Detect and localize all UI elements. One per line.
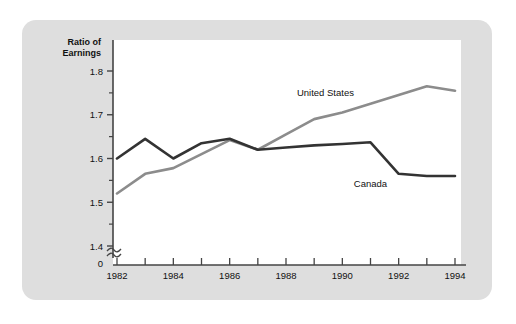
x-axis-tick-label: 1986	[219, 270, 240, 281]
x-axis-tick-label: 1990	[332, 270, 353, 281]
y-axis: 1.41.51.61.71.8	[90, 40, 113, 258]
y-axis-tick-label: 1.8	[90, 66, 103, 77]
y-axis-title-line2: Earnings	[62, 48, 101, 58]
chart-figure: 1.41.51.61.71.8 198219841986198819901992…	[0, 0, 516, 324]
x-axis-tick-label: 1994	[444, 270, 465, 281]
x-axis-tick-label: 1992	[388, 270, 409, 281]
y-axis-tick-label: 1.7	[90, 109, 103, 120]
y-axis-tick-label: 1.5	[90, 197, 103, 208]
series-label-canada: Canada	[354, 178, 388, 189]
y-axis-tick-label: 1.6	[90, 153, 103, 164]
x-axis-tick-label: 1984	[163, 270, 184, 281]
x-axis-tick-label: 1988	[275, 270, 296, 281]
y-axis-title-line1: Ratio of	[68, 37, 102, 47]
x-axis-tick-label: 1982	[106, 270, 127, 281]
y-axis-tick-label: 1.4	[90, 241, 103, 252]
series-label-united-states: United States	[297, 87, 354, 98]
y-axis-zero-label: 0	[98, 258, 103, 269]
line-chart: 1.41.51.61.71.8 198219841986198819901992…	[0, 0, 516, 324]
